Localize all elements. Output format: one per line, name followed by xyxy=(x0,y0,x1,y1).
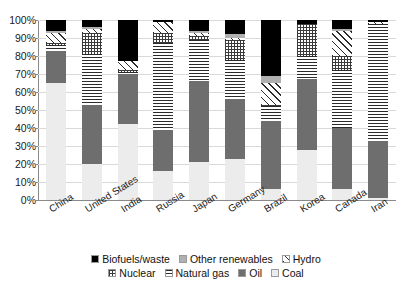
bar-segment xyxy=(332,31,352,56)
bar-segment xyxy=(46,51,66,83)
bar-segment xyxy=(153,22,173,33)
bar-segment xyxy=(153,33,173,44)
bar-column xyxy=(82,20,102,200)
stacked-bar-chart: 0%10%20%30%40%50%60%70%80%90%100% ChinaU… xyxy=(0,0,406,293)
bar-segment xyxy=(118,61,138,70)
legend-item-other-renewables: Other renewables xyxy=(179,254,273,265)
bar-series-container xyxy=(38,20,396,200)
bar-segment xyxy=(297,56,317,79)
bar-segment xyxy=(261,83,281,105)
legend-item-hydro: Hydro xyxy=(282,254,321,265)
bar-segment xyxy=(153,130,173,171)
bar-segment xyxy=(225,60,245,100)
legend-row-secondary: NuclearNatural gasOilCoal xyxy=(56,266,356,280)
bar-segment xyxy=(297,150,317,200)
bar-segment xyxy=(332,70,352,128)
y-axis-tick-label: 20% xyxy=(2,159,36,169)
bar-segment xyxy=(225,20,245,34)
bar-segment xyxy=(368,141,388,199)
y-axis-tick-label: 80% xyxy=(2,51,36,61)
legend-label: Coal xyxy=(282,268,304,279)
legend-row-primary: Biofuels/wasteOther renewablesHydro xyxy=(56,252,356,266)
bar-stack xyxy=(261,20,281,200)
y-axis-tick-label: 0% xyxy=(2,195,36,205)
y-axis-tick-label: 90% xyxy=(2,33,36,43)
plot-area xyxy=(38,20,396,200)
horizontal-lines-icon xyxy=(165,269,173,277)
bar-segment xyxy=(46,33,66,44)
bar-segment xyxy=(82,20,102,27)
solid-mid-gray-icon xyxy=(179,255,187,263)
y-axis-tick-label: 70% xyxy=(2,69,36,79)
bar-segment xyxy=(189,40,209,81)
legend-label: Natural gas xyxy=(176,268,230,279)
x-axis-labels: ChinaUnited StatesIndiaRussiaJapanGerman… xyxy=(38,201,396,245)
bar-column xyxy=(118,20,138,200)
legend-label: Biofuels/waste xyxy=(102,254,170,265)
bar-segment xyxy=(261,20,281,76)
bar-stack xyxy=(225,20,245,200)
bar-column xyxy=(153,20,173,200)
bar-stack xyxy=(153,20,173,200)
bar-stack xyxy=(189,20,209,200)
solid-black-icon xyxy=(91,255,99,263)
bar-segment xyxy=(46,83,66,200)
legend-item-nuclear: Nuclear xyxy=(108,268,155,279)
cross-hatch-icon xyxy=(108,269,116,277)
solid-light-gray-icon xyxy=(271,269,279,277)
diagonal-hatch-icon xyxy=(282,255,290,263)
bar-column xyxy=(368,20,388,200)
bar-segment xyxy=(225,99,245,158)
bar-segment xyxy=(332,128,352,189)
bar-stack xyxy=(46,20,66,200)
bar-segment xyxy=(332,20,352,29)
y-axis-tick-label: 100% xyxy=(2,15,36,25)
bar-segment xyxy=(368,24,388,141)
y-axis-tick-label: 50% xyxy=(2,105,36,115)
legend-label: Hydro xyxy=(293,254,321,265)
legend-label: Other renewables xyxy=(190,254,273,265)
bar-segment xyxy=(82,33,102,55)
bar-segment xyxy=(297,79,317,149)
bar-column xyxy=(332,20,352,200)
y-axis-tick-label: 60% xyxy=(2,87,36,97)
bar-segment xyxy=(153,43,173,129)
bar-column xyxy=(225,20,245,200)
bar-stack xyxy=(332,20,352,200)
bar-stack xyxy=(368,20,388,200)
bar-column xyxy=(261,20,281,200)
bar-column xyxy=(297,20,317,200)
bar-segment xyxy=(332,56,352,70)
y-axis-tick-label: 30% xyxy=(2,141,36,151)
bar-segment xyxy=(261,106,281,120)
bar-segment xyxy=(82,54,102,104)
legend-item-coal: Coal xyxy=(271,268,304,279)
legend-item-biofuels-waste: Biofuels/waste xyxy=(91,254,170,265)
y-axis-tick-label: 40% xyxy=(2,123,36,133)
bar-segment xyxy=(297,24,317,56)
legend-item-natural-gas: Natural gas xyxy=(165,268,230,279)
bar-stack xyxy=(82,20,102,200)
bar-segment xyxy=(46,20,66,31)
bar-segment xyxy=(189,20,209,31)
legend-label: Nuclear xyxy=(119,268,155,279)
y-axis-tick-label: 10% xyxy=(2,177,36,187)
bar-column xyxy=(46,20,66,200)
bar-column xyxy=(189,20,209,200)
legend-label: Oil xyxy=(249,268,262,279)
bar-segment xyxy=(118,20,138,61)
bar-segment xyxy=(261,121,281,189)
y-axis: 0%10%20%30%40%50%60%70%80%90%100% xyxy=(0,20,36,201)
bar-segment xyxy=(261,76,281,83)
solid-dark-gray-icon xyxy=(238,269,246,277)
bar-stack xyxy=(118,20,138,200)
bar-segment xyxy=(118,74,138,124)
bar-stack xyxy=(297,20,317,200)
bar-segment xyxy=(189,81,209,162)
bar-segment xyxy=(225,40,245,60)
bar-segment xyxy=(82,105,102,164)
legend-item-oil: Oil xyxy=(238,268,262,279)
chart-legend: Biofuels/wasteOther renewablesHydro Nucl… xyxy=(56,252,356,280)
